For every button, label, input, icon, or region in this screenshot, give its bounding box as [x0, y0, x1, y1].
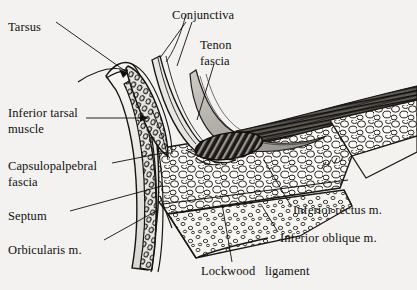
label-tenon-fascia-line2: fascia [200, 54, 230, 68]
label-tenon-fascia-line1: Tenon [200, 38, 232, 52]
label-tarsus: Tarsus [8, 20, 41, 34]
label-orbicularis-muscle: Orbicularis m. [8, 243, 82, 257]
label-inferior-rectus-muscle: Inferior rectus m. [293, 203, 382, 217]
label-capsulopalpebral-fascia-line1: Capsulopalpebral [8, 159, 97, 173]
label-lockwood-ligament: Lockwood ligament [201, 264, 309, 278]
label-inferior-tarsal-muscle-line1: Inferior tarsal [8, 106, 78, 120]
label-conjunctiva: Conjunctiva [172, 8, 234, 22]
label-septum: Septum [8, 209, 47, 223]
label-inferior-tarsal-muscle-line2: muscle [8, 122, 44, 136]
label-inferior-oblique-muscle: Inferior oblique m. [280, 231, 377, 245]
label-capsulopalpebral-fascia-line2: fascia [8, 175, 38, 189]
